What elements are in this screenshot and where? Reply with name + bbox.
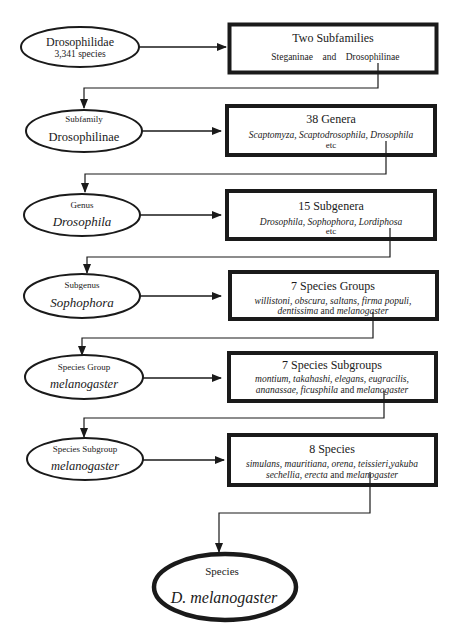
box-species-title: 8 Species: [309, 442, 355, 456]
node-subfamily-rank: Subfamily: [65, 114, 103, 124]
node-species-final-rank: Species: [205, 565, 239, 577]
node-family-count: 3,341 species: [54, 49, 105, 59]
node-subfamily-name: Drosophilinae: [49, 130, 120, 144]
box-genera-line-1: Scaptomyza, Scaptodrosophila, Drosophila: [249, 130, 414, 140]
node-family-name: Drosophilidae: [46, 35, 114, 49]
node-species-final-name: D. melanogaster: [170, 589, 278, 607]
node-genus-name: Drosophila: [52, 214, 112, 229]
level-species-final: Species D. melanogaster: [154, 554, 296, 620]
level-subfamily: Subfamily Drosophilinae 38 Genera Scapto…: [26, 106, 435, 192]
level-species-subgroup: Species Subgroup melanogaster 8 Species …: [27, 435, 436, 552]
box-species-line-1: simulans, mauritiana, orena, teissieri,y…: [246, 459, 418, 469]
box-species-subgroups-line-1: montium, takahashi, elegans, eugracilis,: [255, 374, 409, 384]
box-genera-title: 38 Genera: [306, 112, 356, 126]
level-species-group: Species Group melanogaster 7 Species Sub…: [25, 353, 436, 437]
node-ellipse-species-final[interactable]: [154, 554, 296, 620]
node-subgenus-name: Sophophora: [50, 295, 114, 310]
box-species-groups-line-2: dentissima and melanogaster: [278, 306, 389, 316]
level-genus: Genus Drosophila 15 Subgenera Drosophila…: [24, 191, 435, 273]
taxonomy-diagram: Drosophilidae 3,341 species Two Subfamil…: [0, 0, 458, 642]
box-species-groups-title: 7 Species Groups: [291, 279, 375, 293]
node-subgenus-rank: Subgenus: [64, 280, 100, 290]
node-species-subgroup-rank: Species Subgroup: [53, 444, 118, 454]
node-species-group-name: melanogaster: [50, 377, 118, 391]
box-species-groups-line-1: willistoni, obscura, saltans, firma popu…: [255, 296, 412, 306]
box-genera-line-2: etc: [326, 140, 337, 150]
box-subgenera-title: 15 Subgenera: [298, 199, 364, 213]
node-species-group-rank: Species Group: [58, 362, 111, 372]
box-subfamilies-line-1: Steganinae and Drosophilinae: [255, 52, 412, 62]
level-family: Drosophilidae 3,341 species Two Subfamil…: [21, 25, 437, 109]
box-subgenera-line-2: etc: [326, 226, 337, 236]
box-species-subgroups-title: 7 Species Subgroups: [282, 358, 382, 372]
box-subfamilies-title: Two Subfamilies: [292, 31, 374, 45]
level-subgenus: Subgenus Sophophora 7 Species Groups wil…: [24, 272, 437, 355]
box-species-line-2: sechellia, erecta and melanogaster: [266, 470, 398, 480]
box-species-subgroups-line-2: ananassae, ficusphila and melanogaster: [256, 385, 409, 395]
node-species-subgroup-name: melanogaster: [51, 459, 119, 473]
node-genus-rank: Genus: [71, 200, 94, 210]
